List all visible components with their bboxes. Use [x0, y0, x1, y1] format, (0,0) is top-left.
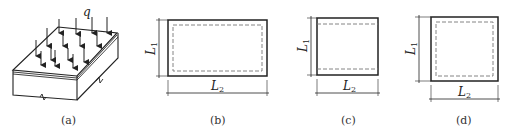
slab-diagram: q (a) L1 L2 (b) L1 L2 (c): [0, 0, 511, 138]
dim-l2-b: L2: [210, 79, 224, 94]
panel-d-plan: L1 L2 (d): [404, 15, 500, 127]
caption-b: (b): [210, 114, 226, 127]
caption-d: (d): [456, 114, 472, 127]
caption-a: (a): [61, 114, 76, 127]
caption-c: (c): [341, 114, 356, 127]
panel-a-slab: q (a): [13, 5, 118, 127]
dim-l1-d: L1: [404, 42, 419, 56]
panel-c-plan: L1 L2 (c): [296, 16, 380, 127]
dim-l1-b: L1: [144, 42, 159, 56]
panel-b-plan: L1 L2 (b): [144, 18, 269, 127]
dim-l2-d: L2: [457, 85, 471, 100]
dim-l1-c: L1: [296, 39, 311, 53]
dim-l2-c: L2: [342, 79, 356, 94]
load-label: q: [83, 5, 91, 19]
